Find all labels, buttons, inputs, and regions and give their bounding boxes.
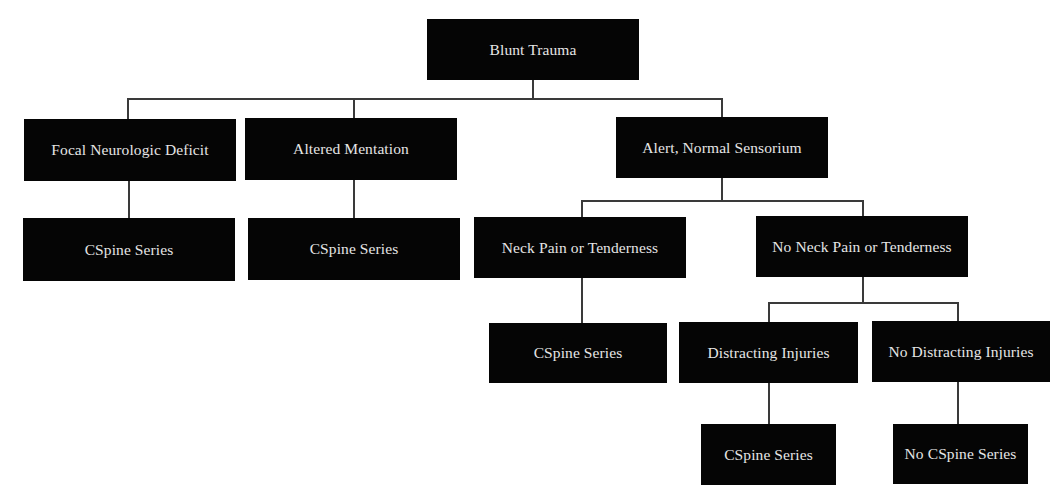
cspine-decision-tree: Blunt Trauma Focal Neurologic Deficit Al… (0, 0, 1058, 501)
node-distracting-injuries: Distracting Injuries (679, 322, 858, 383)
connector-to-no-neck-pain (862, 200, 864, 216)
node-no-cspine-series: No CSpine Series (893, 424, 1028, 484)
node-no-distracting-injuries: No Distracting Injuries (872, 321, 1050, 382)
connector-alert-down (721, 178, 723, 200)
node-alert-normal-sensorium: Alert, Normal Sensorium (616, 117, 828, 178)
node-cspine-series-distracting: CSpine Series (701, 424, 836, 485)
node-focal-neurologic-deficit: Focal Neurologic Deficit (24, 119, 236, 181)
connector-distracting-to-cspine (768, 383, 770, 424)
node-altered-mentation: Altered Mentation (245, 118, 457, 180)
connector-to-no-distracting (957, 302, 959, 321)
node-neck-pain-or-tenderness: Neck Pain or Tenderness (474, 217, 686, 278)
connector-root-down (532, 80, 534, 99)
connector-no-distracting-to-no-cspine (957, 382, 959, 424)
node-cspine-series-altered: CSpine Series (248, 218, 460, 280)
connector-altered-to-cspine (353, 180, 355, 218)
connector-focal-to-cspine (128, 181, 130, 218)
node-no-neck-pain-or-tenderness: No Neck Pain or Tenderness (756, 216, 968, 277)
connector-no-neck-pain-down (862, 277, 864, 302)
connector-to-focal (127, 98, 129, 119)
node-cspine-series-focal: CSpine Series (23, 218, 235, 281)
node-cspine-series-neck-pain: CSpine Series (489, 323, 667, 383)
connector-no-neck-pain-bar (768, 302, 958, 304)
connector-to-distracting (768, 302, 770, 322)
connector-neck-pain-to-cspine (581, 278, 583, 323)
connector-to-alert (721, 98, 723, 117)
connector-to-altered (353, 98, 355, 118)
node-blunt-trauma: Blunt Trauma (427, 19, 639, 80)
connector-alert-bar (581, 200, 863, 202)
connector-to-neck-pain (581, 200, 583, 217)
connector-level1-bar (127, 98, 723, 100)
